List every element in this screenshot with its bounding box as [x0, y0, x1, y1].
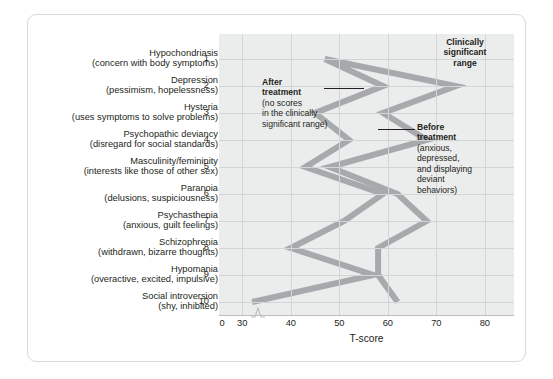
x-tick-70: 70 [421, 318, 451, 328]
scale-label-3: Hysteria(uses symptoms to solve problems… [18, 102, 218, 123]
scale-number-3: 3 [195, 107, 209, 117]
after-treatment-line2: treatment [262, 87, 301, 97]
figure-panel: Hypochondriasis(concern with body sympto… [27, 14, 526, 362]
scale-number-5: 5 [195, 161, 209, 171]
scale-number-7: 7 [195, 215, 209, 225]
x-tick-80: 80 [470, 318, 500, 328]
before-treatment-body3: and displaying [417, 164, 472, 174]
scale-label-column: Hypochondriasis(concern with body sympto… [18, 15, 218, 363]
clinically-significant-line1: Clinically [446, 37, 484, 47]
scale-name: Hysteria [18, 102, 218, 112]
scale-label-10: Social introversion(shy, inhibited) [18, 291, 218, 312]
scale-description: (interests like those of other sex) [18, 166, 218, 176]
scale-label-7: Psychasthenia(anxious, guilt feelings) [18, 210, 218, 231]
after-treatment-line1: After [262, 77, 282, 87]
scale-description: (concern with body symptoms) [18, 58, 218, 68]
scale-description: (withdrawn, bizarre thoughts) [18, 247, 218, 257]
before-treatment-body2: depressed, [417, 153, 460, 163]
scale-number-10: 10 [195, 296, 209, 306]
scale-number-1: 1 [195, 53, 209, 63]
scale-name: Hypomania [18, 264, 218, 274]
before-treatment-line2: treatment [417, 132, 456, 142]
x-tick-40: 40 [276, 318, 306, 328]
gridline-row-10 [219, 302, 514, 303]
annotation-before-treatment: Before treatment (anxious, depressed, an… [417, 122, 499, 195]
clinically-significant-line3: range [453, 58, 476, 68]
after-treatment-body3: significant range) [262, 119, 327, 129]
scale-label-5: Masculinity/femininity(interests like th… [18, 156, 218, 177]
scale-name: Social introversion [18, 291, 218, 301]
scale-number-4: 4 [195, 134, 209, 144]
gridline-x-30 [242, 34, 243, 315]
scale-label-4: Psychopathic deviancy(disregard for soci… [18, 129, 218, 150]
scale-label-8: Schizophrenia(withdrawn, bizarre thought… [18, 237, 218, 258]
gridline-x-60 [388, 34, 389, 315]
scale-name: Psychopathic deviancy [18, 129, 218, 139]
annotation-clinically-significant: Clinically significant range [426, 37, 504, 68]
scale-name: Schizophrenia [18, 237, 218, 247]
before-treatment-body4: deviant [417, 174, 445, 184]
scale-description: (shy, inhibited) [18, 301, 218, 311]
scale-number-9: 9 [195, 269, 209, 279]
before-treatment-line1: Before [417, 122, 444, 132]
scale-number-8: 8 [195, 242, 209, 252]
x-axis-title: T-score [219, 333, 514, 344]
scale-description: (pessimism, hopelessness) [18, 85, 218, 95]
scale-name: Psychasthenia [18, 210, 218, 220]
axis-break-icon [251, 307, 265, 318]
scale-label-9: Hypomania(overactive, excited, impulsive… [18, 264, 218, 285]
scale-number-6: 6 [195, 188, 209, 198]
scale-name: Hypochondriasis [18, 48, 218, 58]
scale-description: (disregard for social standards) [18, 139, 218, 149]
before-treatment-body5: behaviors) [417, 185, 457, 195]
scale-description: (uses symptoms to solve problems) [18, 112, 218, 122]
gridline-row-8 [219, 248, 514, 249]
scale-label-6: Paranoia(delusions, suspiciousness) [18, 183, 218, 204]
scale-label-1: Hypochondriasis(concern with body sympto… [18, 48, 218, 69]
scale-number-2: 2 [195, 80, 209, 90]
scale-label-2: Depression(pessimism, hopelessness) [18, 75, 218, 96]
before-treatment-body1: (anxious, [417, 143, 452, 153]
scale-description: (overactive, excited, impulsive) [18, 274, 218, 284]
x-tick-50: 50 [324, 318, 354, 328]
annotation-after-treatment: After treatment (no scores in the clinic… [262, 77, 348, 129]
clinically-significant-line2: significant [444, 47, 487, 57]
scale-name: Masculinity/femininity [18, 156, 218, 166]
after-treatment-leader-line [324, 88, 364, 89]
scale-name: Paranoia [18, 183, 218, 193]
before-treatment-leader-line [378, 129, 415, 130]
x-tick-30: 30 [227, 318, 257, 328]
after-treatment-body1: (no scores [262, 98, 302, 108]
scale-name: Depression [18, 75, 218, 85]
scale-description: (anxious, guilt feelings) [18, 220, 218, 230]
gridline-row-9 [219, 275, 514, 276]
x-tick-60: 60 [373, 318, 403, 328]
scale-description: (delusions, suspiciousness) [18, 193, 218, 203]
after-treatment-body2: in the clinically [262, 108, 317, 118]
gridline-row-7 [219, 221, 514, 222]
